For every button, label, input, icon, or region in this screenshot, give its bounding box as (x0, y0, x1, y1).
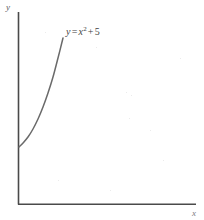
equation-constant: 5 (95, 26, 100, 37)
equation-plus: + (87, 26, 95, 37)
graph-canvas (0, 0, 204, 220)
equation-lhs: y (66, 26, 71, 37)
y-axis-label: y (6, 3, 10, 12)
parabola-curve (19, 38, 63, 147)
x-axis-label: x (192, 209, 196, 218)
curve-equation-label: y=x2+5 (66, 26, 100, 37)
math-graph-figure: y x y=x2+5 (0, 0, 204, 220)
